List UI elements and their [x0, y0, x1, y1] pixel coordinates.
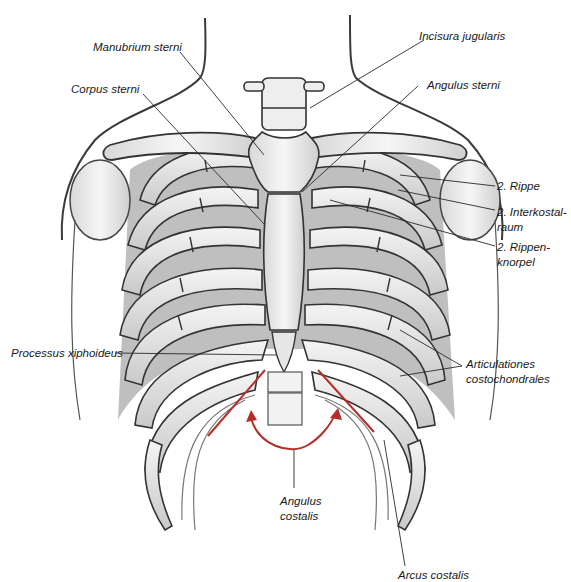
lumbar-vertebra [268, 372, 302, 425]
label-corpus-sterni: Corpus sterni [71, 82, 139, 97]
vertebra [244, 78, 324, 130]
arrowhead-left-icon [246, 410, 257, 422]
label-rippenknorpel-line2: knorpel [497, 255, 535, 270]
corpus-sterni [264, 194, 305, 330]
label-rippenknorpel-line1: 2. Rippen- [497, 240, 550, 255]
label-2-rippe: 2. Rippe [497, 179, 540, 194]
manubrium-sterni [249, 132, 319, 192]
label-arcus-costalis: Arcus costalis [398, 568, 469, 582]
label-interkostalraum-line2: raum [497, 220, 523, 235]
label-interkostalraum-line1: 2. Interkostal- [497, 205, 567, 220]
label-angulus-costalis-line2: costalis [280, 509, 318, 524]
label-angulus-sterni: Angulus sterni [427, 78, 500, 93]
label-angulus-costalis-line1: Angulus [280, 494, 322, 509]
label-articulationes-line2: costochondrales [466, 372, 550, 387]
ribcage-diagram: Manubrium sterni Incisura jugularis Corp… [0, 0, 571, 582]
processus-xiphoideus [272, 332, 296, 372]
label-articulationes-line1: Articulationes [466, 357, 535, 372]
label-incisura-jugularis: Incisura jugularis [419, 29, 505, 44]
label-manubrium-sterni: Manubrium sterni [93, 40, 182, 55]
label-processus-xiphoideus: Processus xiphoideus [11, 346, 123, 361]
